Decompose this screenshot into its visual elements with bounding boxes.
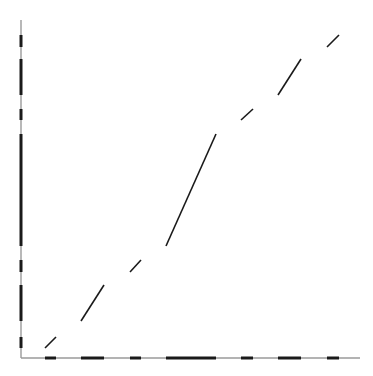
- diagram-canvas: [0, 0, 373, 376]
- background: [0, 0, 373, 376]
